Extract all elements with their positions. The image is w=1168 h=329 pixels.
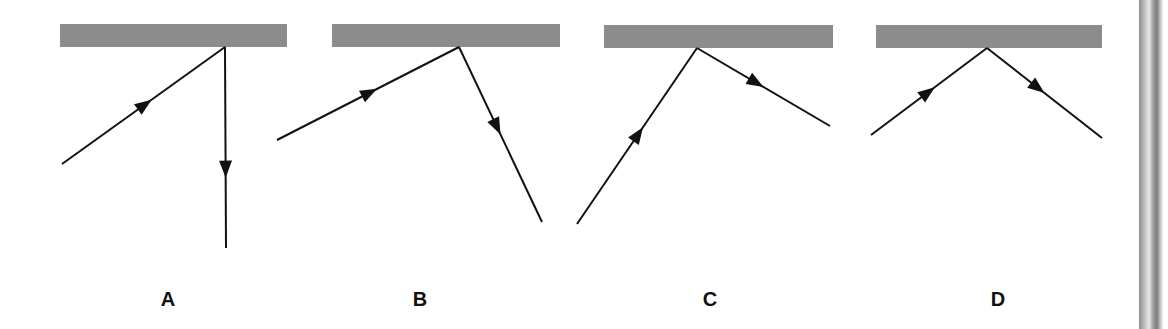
reflected-arrow-icon [487, 116, 500, 134]
mirror-surface [876, 25, 1102, 48]
panel-d [871, 25, 1102, 138]
panel-a [60, 24, 287, 248]
reflected-arrow-icon [219, 161, 232, 178]
incident-arrow-icon [628, 127, 643, 145]
panel-b [277, 24, 560, 222]
reflected-arrow-icon [746, 73, 764, 87]
panel-label-b: B [413, 288, 427, 311]
reflection-diagram [0, 0, 1168, 329]
incident-arrow-icon [917, 87, 935, 102]
mirror-surface [604, 25, 833, 48]
panel-c [577, 25, 833, 224]
incident-arrow-icon [134, 100, 152, 115]
page-edge-border [1139, 0, 1163, 329]
panel-label-c: C [703, 288, 717, 311]
panel-label-a: A [161, 288, 175, 311]
reflected-ray [225, 47, 226, 248]
reflected-arrow-icon [1027, 77, 1044, 93]
incident-arrow-icon [359, 89, 377, 103]
panel-label-d: D [991, 288, 1005, 311]
mirror-surface [332, 24, 560, 47]
mirror-surface [60, 24, 287, 47]
